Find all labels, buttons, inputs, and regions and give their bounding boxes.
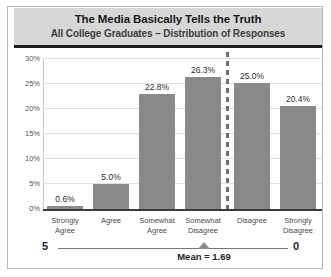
y-tick-label: 20% xyxy=(25,104,40,113)
category-label: Agree xyxy=(85,216,137,226)
category-label-line1: Strongly xyxy=(272,216,324,226)
chart-subtitle: All College Graduates – Distribution of … xyxy=(51,27,286,40)
chart-figure: The Media Basically Tells the Truth All … xyxy=(0,0,331,277)
y-tick-label: 30% xyxy=(25,54,40,63)
header-rule xyxy=(14,45,322,48)
category-label-line1: Agree xyxy=(85,216,137,226)
midpoint-divider-line xyxy=(226,52,229,211)
category-label-line1: Somewhat xyxy=(131,216,183,226)
y-tick-label: 5% xyxy=(29,179,40,188)
bar-slot: 25.0% xyxy=(234,58,270,209)
bar-slot: 26.3% xyxy=(185,58,221,209)
y-tick-label: 0% xyxy=(29,204,40,213)
y-axis-tick-labels: 30% 25% 20% 15% 10% 5% 0% xyxy=(14,58,40,211)
category-label-line2: Agree xyxy=(131,226,183,236)
bar-value-label: 20.4% xyxy=(286,94,310,104)
bar xyxy=(234,83,270,209)
mean-value-label: Mean = 1.69 xyxy=(177,251,231,262)
bar-series: 0.6% 5.0% 22.8% 26.3% 25.0% xyxy=(43,58,322,209)
bar-value-label: 0.6% xyxy=(55,194,74,204)
category-label-line1: Somewhat xyxy=(177,216,229,226)
bar-slot: 20.4% xyxy=(280,58,316,209)
bar-value-label: 5.0% xyxy=(101,172,120,182)
category-label: Somewhat Agree xyxy=(131,216,183,235)
bar-value-label: 25.0% xyxy=(240,71,264,81)
category-label: Somewhat Disagree xyxy=(177,216,229,235)
category-label: Strongly Agree xyxy=(39,216,91,235)
bar-slot: 5.0% xyxy=(93,58,129,209)
y-tick-label: 10% xyxy=(25,154,40,163)
bar xyxy=(139,94,175,209)
mean-marker-triangle-icon xyxy=(198,242,210,249)
y-tick-label: 25% xyxy=(25,79,40,88)
bar-value-label: 22.8% xyxy=(145,82,169,92)
axes-box: 0.6% 5.0% 22.8% 26.3% 25.0% xyxy=(43,58,322,211)
bar xyxy=(93,184,129,209)
scale-right-endpoint: 0 xyxy=(293,240,299,252)
bar xyxy=(185,77,221,209)
category-label-line1: Disagree xyxy=(226,216,278,226)
category-label-line2: Agree xyxy=(39,226,91,236)
bar-value-label: 26.3% xyxy=(191,65,215,75)
x-axis-category-labels: Strongly Agree Agree Somewhat Agree Some… xyxy=(43,216,322,238)
category-label-line2: Disagree xyxy=(177,226,229,236)
category-label-line1: Strongly xyxy=(39,216,91,226)
y-tick-label: 15% xyxy=(25,129,40,138)
chart-title: The Media Basically Tells the Truth xyxy=(75,13,262,26)
bar-slot: 0.6% xyxy=(47,58,83,209)
scale-left-endpoint: 5 xyxy=(42,240,48,252)
chart-header-band: The Media Basically Tells the Truth All … xyxy=(14,8,322,45)
category-label-line2: Disagree xyxy=(272,226,324,236)
scale-axis-line xyxy=(58,248,288,249)
plot-area: 30% 25% 20% 15% 10% 5% 0% 0.6% xyxy=(14,58,322,218)
category-label: Disagree xyxy=(226,216,278,226)
bar xyxy=(280,106,316,209)
scale-footer: 5 0 Mean = 1.69 xyxy=(14,240,322,266)
bar-slot: 22.8% xyxy=(139,58,175,209)
x-axis-line xyxy=(43,209,322,211)
category-label: Strongly Disagree xyxy=(272,216,324,235)
